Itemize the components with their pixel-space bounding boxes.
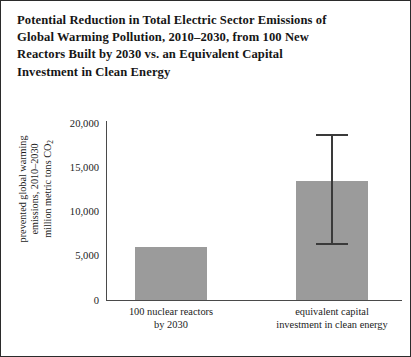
error-bar-cap-lower-2 — [316, 243, 348, 245]
y-axis-title-line-2: emissions, 2010–2030 — [29, 109, 41, 269]
y-axis-title-line-1: prevented global warming — [17, 109, 29, 269]
y-tick-label: 5,000 — [1, 250, 106, 261]
x-category-label-2: equivalent capitalinvestment in clean en… — [252, 306, 411, 331]
y-axis-line — [106, 121, 107, 301]
y-tick-label: 0 — [1, 295, 106, 306]
y-tick-label: 15,000 — [1, 162, 106, 173]
y-tick: 0 — [1, 295, 106, 306]
y-axis-title-subscript: 2 — [46, 140, 55, 144]
y-tick: 10,000 — [1, 206, 106, 217]
y-tick: 5,000 — [1, 250, 106, 261]
y-tick: 15,000 — [1, 162, 106, 173]
y-axis-title-line-3-text: million metric tons CO — [42, 144, 53, 238]
y-axis-title: prevented global warming emissions, 2010… — [17, 109, 57, 269]
error-bar-stem-2 — [331, 135, 332, 244]
x-category-label-1: 100 nuclear reactorsby 2030 — [91, 306, 251, 331]
x-category-label-2-line-1: equivalent capital — [252, 306, 411, 319]
y-tick-label: 10,000 — [1, 206, 106, 217]
plot-area: prevented global warming emissions, 2010… — [1, 1, 411, 357]
bar-1 — [135, 247, 207, 300]
chart-figure: Potential Reduction in Total Electric Se… — [0, 0, 411, 357]
x-category-label-1-line-2: by 2030 — [91, 319, 251, 332]
x-category-label-1-line-1: 100 nuclear reactors — [91, 306, 251, 319]
x-category-label-2-line-2: investment in clean energy — [252, 319, 411, 332]
error-bar-cap-upper-2 — [316, 134, 348, 136]
y-tick: 20,000 — [1, 118, 106, 129]
y-tick-label: 20,000 — [1, 118, 106, 129]
y-axis-title-line-3: million metric tons CO2 — [42, 109, 57, 269]
x-axis-line — [106, 300, 402, 301]
